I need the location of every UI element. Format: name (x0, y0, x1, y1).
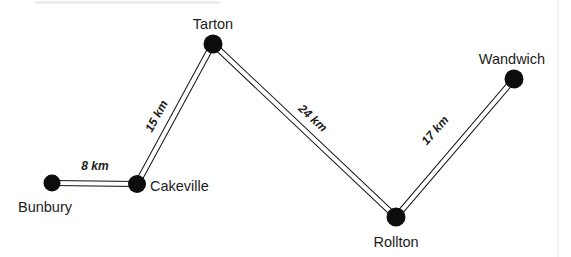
distance-label-rollton-wandwich: 17 km (419, 113, 452, 148)
city-nodes (44, 35, 524, 227)
road-distance-map: Bunbury Cakeville Tarton Rollton Wandwic… (0, 0, 571, 257)
city-node-wandwich[interactable] (505, 70, 524, 89)
road-network (52, 44, 514, 217)
distance-labels: 8 km 15 km 24 km 17 km (81, 98, 451, 173)
city-label-tarton: Tarton (193, 16, 233, 32)
city-node-bunbury[interactable] (44, 175, 61, 192)
road-rollton-wandwich (396, 79, 514, 217)
road-tarton-rollton (213, 44, 396, 217)
city-node-cakeville[interactable] (128, 175, 146, 193)
city-label-wandwich: Wandwich (479, 51, 545, 67)
city-node-tarton[interactable] (204, 35, 223, 54)
top-edge-band (35, 1, 220, 4)
road-bunbury-cakeville (52, 183, 137, 184)
road-cakeville-tarton (137, 44, 213, 184)
city-label-rollton: Rollton (373, 234, 418, 250)
city-label-cakeville: Cakeville (150, 178, 209, 194)
city-label-bunbury: Bunbury (18, 199, 73, 215)
distance-label-bunbury-cakeville: 8 km (81, 159, 109, 173)
city-node-rollton[interactable] (387, 208, 406, 227)
map-canvas: Bunbury Cakeville Tarton Rollton Wandwic… (0, 0, 571, 257)
